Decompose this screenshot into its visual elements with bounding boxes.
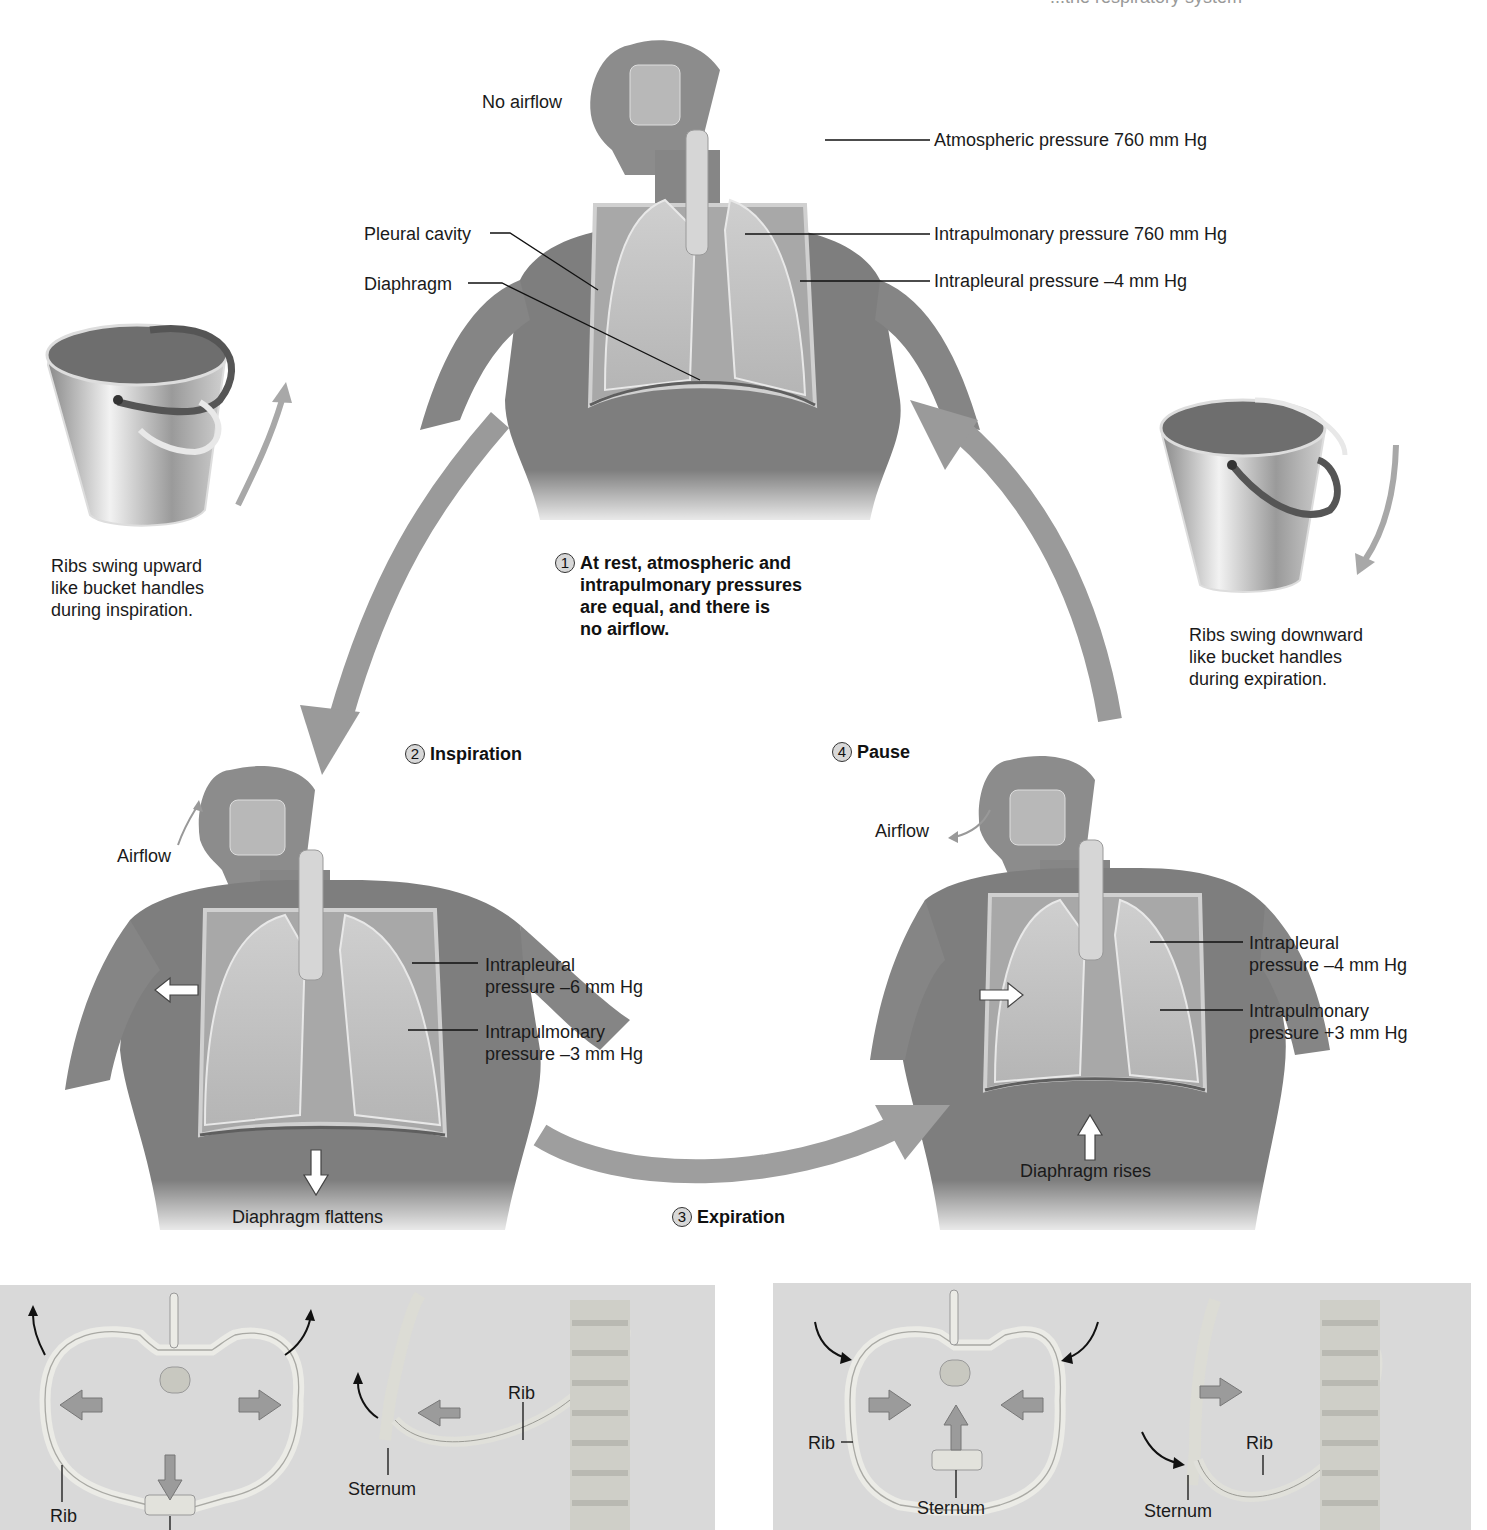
label-line: pressure –4 mm Hg	[1249, 954, 1407, 976]
step-4-label: Pause	[857, 741, 910, 763]
rib-label-side-left: Rib	[508, 1382, 535, 1404]
pleural-cavity-label: Pleural cavity	[364, 223, 471, 245]
step-3-expiration: 3 Expiration	[672, 1206, 785, 1228]
label-line: pressure –6 mm Hg	[485, 976, 643, 998]
sternum-label-side-left: Sternum	[348, 1478, 416, 1500]
sternum-label-cross-section-right: Sternum	[917, 1497, 985, 1519]
label-line: Intrapleural	[1249, 932, 1407, 954]
step-1-rest: 1 At rest, atmospheric and intrapulmonar…	[555, 552, 802, 640]
bucket-right-caption: Ribs swing downward like bucket handles …	[1189, 624, 1363, 690]
step-2-inspiration: 2 Inspiration	[405, 743, 522, 765]
step-3-label: Expiration	[697, 1206, 785, 1228]
artwork-layer	[0, 0, 1487, 1530]
step-2-number-badge: 2	[405, 744, 425, 764]
step-4-pause: 4 Pause	[832, 741, 910, 763]
step-4-number-badge: 4	[832, 742, 852, 762]
step-2-label: Inspiration	[430, 743, 522, 765]
airflow-in-label: Airflow	[117, 845, 171, 867]
intrapleural-pressure-expiration-label: Intrapleural pressure –4 mm Hg	[1249, 932, 1407, 976]
rib-label-side-right: Rib	[1246, 1432, 1273, 1454]
caption-line: Ribs swing downward	[1189, 624, 1363, 646]
bucket-right-illustration	[1161, 400, 1345, 592]
step-1-text-line: At rest, atmospheric and	[580, 552, 802, 574]
caption-line: like bucket handles	[1189, 646, 1363, 668]
bucket-left-illustration	[47, 325, 232, 526]
step-1-text-line: no airflow.	[580, 618, 802, 640]
label-line: Intrapleural	[485, 954, 643, 976]
diaphragm-label: Diaphragm	[364, 273, 452, 295]
rib-label-cross-section-left: Rib	[50, 1505, 77, 1527]
label-line: Intrapulmonary	[485, 1021, 643, 1043]
bucket-left-up-arrow	[238, 400, 282, 505]
airflow-out-label: Airflow	[875, 820, 929, 842]
step-3-number-badge: 3	[672, 1207, 692, 1227]
sternum-label-side-right: Sternum	[1144, 1500, 1212, 1522]
step-1-text-line: are equal, and there is	[580, 596, 802, 618]
bucket-left-caption: Ribs swing upward like bucket handles du…	[51, 555, 204, 621]
label-line: pressure –3 mm Hg	[485, 1043, 643, 1065]
atmospheric-pressure-label: Atmospheric pressure 760 mm Hg	[934, 129, 1207, 151]
intrapulmonary-pressure-inspiration-label: Intrapulmonary pressure –3 mm Hg	[485, 1021, 643, 1065]
label-line: pressure +3 mm Hg	[1249, 1022, 1408, 1044]
airflow-in-arrow	[178, 805, 198, 845]
bucket-right-down-arrow	[1365, 445, 1396, 560]
step-1-number-badge: 1	[555, 553, 575, 573]
pause-cycle-arrow	[960, 430, 1110, 720]
no-airflow-label: No airflow	[482, 91, 562, 113]
label-line: Intrapulmonary	[1249, 1000, 1408, 1022]
diaphragm-rises-label: Diaphragm rises	[1020, 1160, 1151, 1182]
inspiration-cycle-arrow	[340, 420, 500, 720]
caption-line: like bucket handles	[51, 577, 204, 599]
intrapleural-pressure-rest-label: Intrapleural pressure –4 mm Hg	[934, 270, 1187, 292]
top-torso-illustration	[420, 40, 980, 530]
caption-line: during inspiration.	[51, 599, 204, 621]
diaphragm-flattens-label: Diaphragm flattens	[232, 1206, 383, 1228]
expiration-cycle-arrow	[540, 1125, 900, 1171]
intrapulmonary-pressure-rest-label: Intrapulmonary pressure 760 mm Hg	[934, 223, 1227, 245]
intrapleural-pressure-inspiration-label: Intrapleural pressure –6 mm Hg	[485, 954, 643, 998]
left-torso-illustration	[65, 766, 630, 1240]
step-1-text-line: intrapulmonary pressures	[580, 574, 802, 596]
rib-label-cross-section-right: Rib	[808, 1432, 835, 1454]
caption-line: during expiration.	[1189, 668, 1363, 690]
intrapulmonary-pressure-expiration-label: Intrapulmonary pressure +3 mm Hg	[1249, 1000, 1408, 1044]
caption-line: Ribs swing upward	[51, 555, 204, 577]
